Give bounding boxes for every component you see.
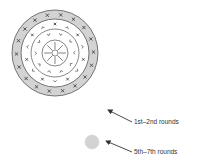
small-gray-circle: [85, 135, 99, 149]
legend-item-5th-7th-rounds: 5th–7th rounds: [106, 141, 178, 155]
arrow-icon: [108, 110, 132, 122]
concentric-circle-diagram: [12, 10, 98, 96]
arrow-icon: [106, 141, 132, 152]
legend-label: 5th–7th rounds: [134, 148, 178, 155]
legend-label: 1st–2nd rounds: [134, 118, 180, 125]
center-dot-ring: [52, 50, 58, 56]
round-pattern-diagram: 1st–2nd rounds 5th–7th rounds: [0, 0, 206, 164]
legend-item-1st-2nd-rounds: 1st–2nd rounds: [108, 110, 180, 125]
